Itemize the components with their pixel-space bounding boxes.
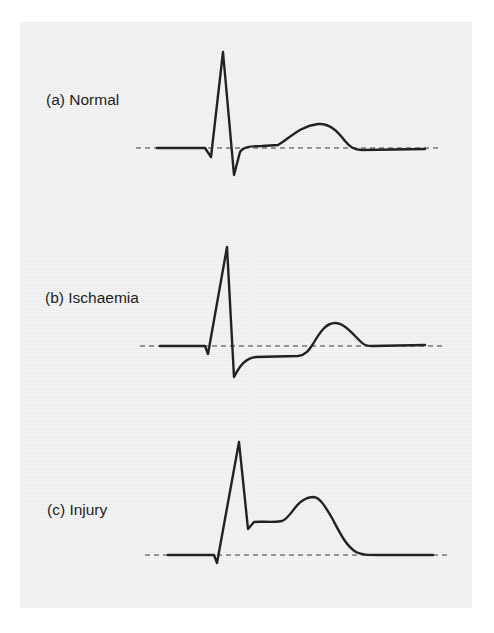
trace-ischaemia (160, 247, 425, 377)
ecg-diagram (0, 0, 494, 633)
ecg-normal (136, 52, 438, 175)
trace-injury (168, 442, 433, 563)
ecg-ischaemia (140, 247, 445, 377)
ecg-injury (145, 442, 448, 563)
trace-normal (157, 52, 425, 175)
